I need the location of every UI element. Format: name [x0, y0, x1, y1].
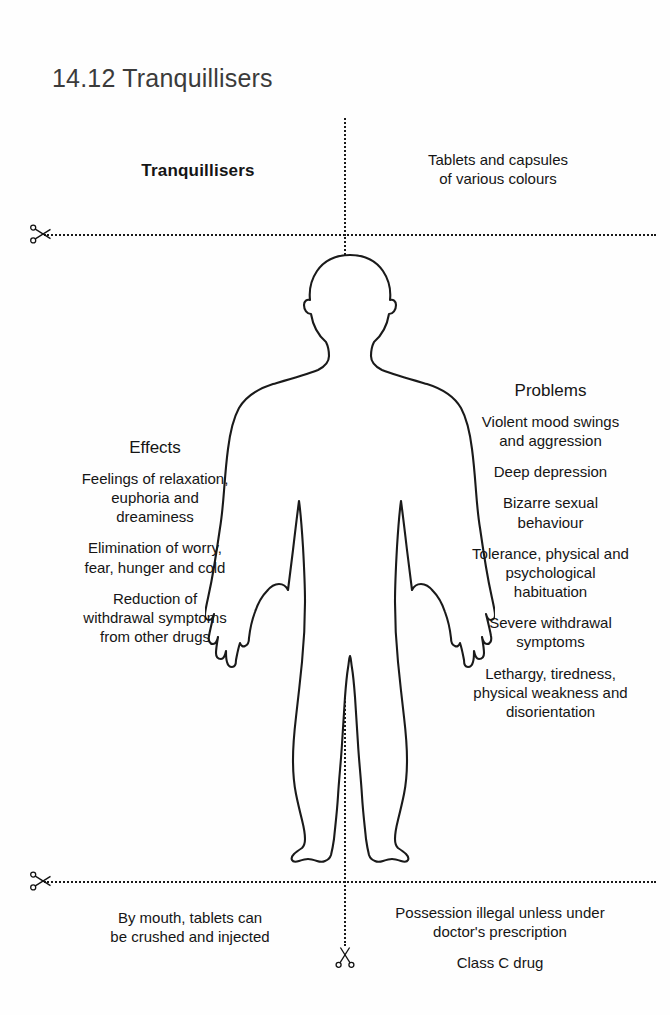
- problems-item-line: Bizarre sexual: [438, 493, 663, 512]
- problems-item: Deep depression: [438, 462, 663, 481]
- effects-item: Feelings of relaxation, euphoria and dre…: [35, 469, 275, 527]
- bottom-left-line: By mouth, tablets can: [75, 908, 305, 927]
- problems-item-line: Severe withdrawal: [438, 613, 663, 632]
- top-left-heading-text: Tranquillisers: [88, 160, 308, 182]
- effects-item-line: Reduction of: [35, 589, 275, 608]
- legal-item-line: Possession illegal unless under: [370, 903, 630, 922]
- problems-item-line: Lethargy, tiredness,: [438, 664, 663, 683]
- top-right-line: of various colours: [388, 169, 608, 188]
- scissors-icon: [30, 871, 52, 891]
- effects-item-line: withdrawal symptoms: [35, 608, 275, 627]
- top-right-description: Tablets and capsules of various colours: [388, 150, 608, 188]
- effects-item-line: Elimination of worry,: [35, 538, 275, 557]
- effects-item-line: fear, hunger and cold: [35, 558, 275, 577]
- horizontal-cut-line-top: [44, 234, 656, 236]
- legal-item-line: Class C drug: [370, 953, 630, 972]
- bottom-left-line: be crushed and injected: [75, 927, 305, 946]
- problems-item-line: symptoms: [438, 632, 663, 651]
- effects-item-line: euphoria and: [35, 488, 275, 507]
- legal-item: Class C drug: [370, 953, 630, 972]
- effects-item: Reduction of withdrawal symptoms from ot…: [35, 589, 275, 647]
- problems-item-line: psychological: [438, 563, 663, 582]
- problems-item: Bizarre sexual behaviour: [438, 493, 663, 531]
- legal-item: Possession illegal unless under doctor's…: [370, 903, 630, 941]
- page-title: 14.12 Tranquillisers: [52, 64, 273, 93]
- top-left-heading: Tranquillisers: [88, 160, 308, 182]
- problems-item-line: Tolerance, physical and: [438, 544, 663, 563]
- problems-item: Lethargy, tiredness, physical weakness a…: [438, 664, 663, 722]
- effects-item-line: dreaminess: [35, 507, 275, 526]
- problems-heading: Problems: [438, 380, 663, 402]
- problems-item: Violent mood swings and aggression: [438, 412, 663, 450]
- problems-item-line: and aggression: [438, 431, 663, 450]
- horizontal-cut-line-bottom: [44, 881, 656, 883]
- problems-item-line: Deep depression: [438, 462, 663, 481]
- effects-item-line: Feelings of relaxation,: [35, 469, 275, 488]
- effects-heading: Effects: [35, 437, 275, 459]
- problems-item: Tolerance, physical and psychological ha…: [438, 544, 663, 602]
- problems-item-line: Violent mood swings: [438, 412, 663, 431]
- legal-item-line: doctor's prescription: [370, 922, 630, 941]
- scissors-icon: [335, 946, 355, 968]
- problems-block: Problems Violent mood swings and aggress…: [438, 380, 663, 721]
- problems-item-line: disorientation: [438, 702, 663, 721]
- effects-item: Elimination of worry, fear, hunger and c…: [35, 538, 275, 576]
- bottom-left-description: By mouth, tablets can be crushed and inj…: [75, 908, 305, 946]
- problems-item: Severe withdrawal symptoms: [438, 613, 663, 651]
- effects-block: Effects Feelings of relaxation, euphoria…: [35, 437, 275, 646]
- problems-item-line: physical weakness and: [438, 683, 663, 702]
- diagram-page: 14.12 Tranquillisers: [0, 0, 670, 1015]
- effects-item-line: from other drugs: [35, 627, 275, 646]
- scissors-icon: [30, 224, 52, 244]
- problems-item-line: behaviour: [438, 513, 663, 532]
- top-right-line: Tablets and capsules: [388, 150, 608, 169]
- vertical-cut-line-top: [344, 118, 346, 236]
- bottom-right-legal-status: Possession illegal unless under doctor's…: [370, 903, 630, 973]
- problems-item-line: habituation: [438, 582, 663, 601]
